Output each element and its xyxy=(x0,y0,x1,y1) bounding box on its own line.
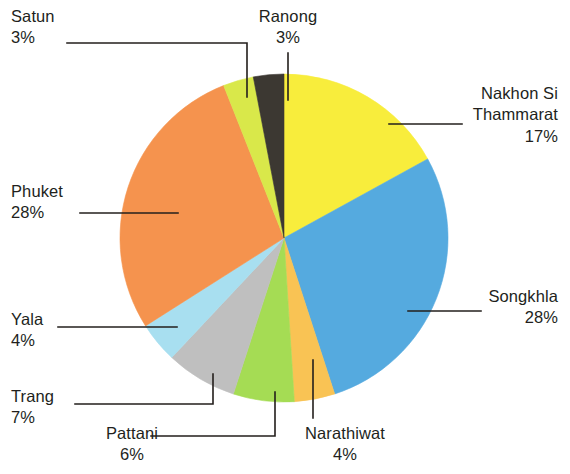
slice-label-pattani: Pattani 6% xyxy=(84,423,180,466)
slice-label-narathiwat-pct: 4% xyxy=(283,444,407,465)
slice-label-ranong-name: Ranong xyxy=(235,6,341,27)
slice-label-songkhla-pct: 28% xyxy=(418,307,558,328)
slice-label-yala-name: Yala xyxy=(11,309,43,330)
slice-label-nakhon-name-line1: Nakhon Si xyxy=(398,83,558,104)
slice-label-phuket-name: Phuket xyxy=(11,181,63,202)
leader-line-trang xyxy=(75,374,213,404)
slice-label-ranong-pct: 3% xyxy=(235,27,341,48)
slice-label-nakhon-si-thammarat: Nakhon Si Thammarat 17% xyxy=(398,83,558,147)
pie-chart-figure: Satun 3% Ranong 3% Nakhon Si Thammarat 1… xyxy=(0,0,570,474)
slice-label-narathiwat: Narathiwat 4% xyxy=(283,423,407,466)
slice-label-satun: Satun 3% xyxy=(11,6,55,49)
slice-label-pattani-pct: 6% xyxy=(84,444,180,465)
slice-label-songkhla: Songkhla 28% xyxy=(418,286,558,329)
slice-label-pattani-name: Pattani xyxy=(84,423,180,444)
slice-label-phuket-pct: 28% xyxy=(11,202,63,223)
slice-label-narathiwat-name: Narathiwat xyxy=(283,423,407,444)
slice-label-satun-pct: 3% xyxy=(11,27,55,48)
slice-label-trang: Trang 7% xyxy=(11,386,54,429)
pie-chart-canvas xyxy=(0,0,570,474)
slice-label-nakhon-pct: 17% xyxy=(398,126,558,147)
slice-label-yala-pct: 4% xyxy=(11,330,43,351)
slice-label-trang-pct: 7% xyxy=(11,407,54,428)
slice-label-songkhla-name: Songkhla xyxy=(418,286,558,307)
slice-label-satun-name: Satun xyxy=(11,6,55,27)
slice-label-trang-name: Trang xyxy=(11,386,54,407)
slice-label-yala: Yala 4% xyxy=(11,309,43,352)
slice-label-ranong: Ranong 3% xyxy=(235,6,341,49)
slice-label-phuket: Phuket 28% xyxy=(11,181,63,224)
slice-label-nakhon-name-line2: Thammarat xyxy=(398,104,558,125)
